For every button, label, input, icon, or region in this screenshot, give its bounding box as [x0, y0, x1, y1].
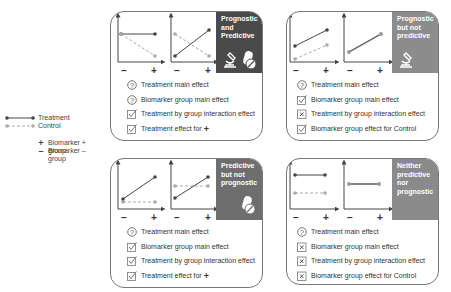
- panel-header: Predictive but not prognostic: [216, 159, 262, 220]
- effect-item: Biomarker group main effect: [297, 240, 425, 255]
- panel-neither: – + – + Neither predictive nor prognosti…: [286, 158, 439, 285]
- panel-title-line: Predictive: [221, 162, 259, 171]
- axis-plus-label: +: [151, 65, 157, 76]
- panel-title-line: prognostic: [221, 179, 259, 188]
- svg-text:+: +: [377, 212, 383, 223]
- checkbox-cross-icon: [297, 242, 307, 252]
- question-icon: ?: [127, 95, 137, 105]
- panel-prognostic-not-predictive: – + – + Prognostic but not predictive ? …: [286, 11, 439, 141]
- question-icon: ?: [297, 80, 307, 90]
- panel-plots: – + – +: [111, 12, 219, 76]
- treatment-line-icon: [4, 114, 36, 122]
- effect-item: Biomarker group effect for Control: [297, 122, 425, 137]
- effect-item: ? Biomarker group main effect: [127, 93, 255, 108]
- effect-item: Biomarker group main effect: [297, 93, 425, 108]
- effect-item: Treatment effect for +: [127, 122, 255, 137]
- effect-item: Biomarker group effect for Control: [297, 269, 425, 284]
- pill-icon: [241, 50, 257, 70]
- checkbox-cross-icon: [297, 256, 307, 266]
- effect-item: ? Treatment main effect: [297, 225, 425, 240]
- panel-title-line: Neither: [397, 162, 435, 171]
- panel-title-line: predictive: [397, 32, 435, 41]
- panel-header: Prognostic but not predictive: [392, 12, 438, 73]
- effect-item: ? Treatment main effect: [297, 78, 425, 93]
- legend-treatment-label: Treatment: [38, 114, 70, 122]
- checkbox-cross-icon: [297, 109, 307, 119]
- panel-effects-list: ? Treatment main effect ? Biomarker grou…: [127, 78, 255, 136]
- panel-predictive-not-prognostic: – + – + Predictive but not prognostic ? …: [110, 158, 263, 288]
- svg-text:?: ?: [130, 229, 134, 236]
- axis-minus-label: –: [121, 65, 127, 76]
- panel-effects-list: ? Treatment main effect Biomarker group …: [297, 225, 425, 283]
- panel-title-line: predictive: [397, 171, 435, 180]
- svg-text:+: +: [205, 65, 211, 76]
- panel-prognostic-and-predictive: – + – + Prognostic and Predictive ? Trea…: [110, 11, 263, 141]
- panel-effects-list: ? Treatment main effect Biomarker group …: [297, 78, 425, 136]
- panel-title-line: nor: [397, 179, 435, 188]
- plus-icon: +: [204, 269, 209, 284]
- effect-item: ? Treatment main effect: [127, 78, 255, 93]
- panel-effects-list: ? Treatment main effect Biomarker group …: [127, 225, 255, 283]
- svg-text:–: –: [121, 212, 127, 223]
- svg-text:?: ?: [130, 96, 134, 103]
- svg-text:–: –: [174, 212, 180, 223]
- effect-item: Treatment by group interaction effect: [127, 254, 255, 269]
- legend-treatment: Treatment: [4, 114, 104, 122]
- legend-control-label: Control: [38, 122, 61, 130]
- effect-item: ? Treatment main effect: [127, 225, 255, 240]
- svg-text:+: +: [151, 212, 157, 223]
- svg-text:?: ?: [300, 229, 304, 236]
- svg-text:+: +: [377, 65, 383, 76]
- effect-item: Treatment by group interaction effect: [297, 107, 425, 122]
- svg-text:–: –: [347, 212, 353, 223]
- svg-text:–: –: [174, 65, 180, 76]
- minus-icon: –: [36, 147, 46, 155]
- effect-item: Treatment effect for +: [127, 269, 255, 284]
- checkbox-checked-icon: [297, 124, 307, 134]
- svg-text:+: +: [323, 212, 329, 223]
- svg-text:?: ?: [130, 82, 134, 89]
- panel-plots: – + – +: [287, 159, 395, 223]
- panel-title-line: Prognostic: [221, 15, 259, 24]
- microscope-icon: [221, 51, 239, 69]
- checkbox-checked-icon: [127, 109, 137, 119]
- svg-text:–: –: [293, 65, 299, 76]
- svg-text:+: +: [205, 212, 211, 223]
- legend-biomarker-minus-label: Biomarker – group: [48, 147, 104, 163]
- question-icon: ?: [127, 80, 137, 90]
- legend-biomarker-plus: + Biomarker + group: [4, 139, 104, 147]
- effect-item: Biomarker group main effect: [127, 240, 255, 255]
- pill-icon: [240, 195, 256, 215]
- plus-icon: +: [204, 122, 209, 137]
- control-line-icon: [4, 122, 36, 130]
- question-icon: ?: [127, 227, 137, 237]
- legend: Treatment Control + Biomarker + group – …: [4, 114, 104, 155]
- checkbox-checked-icon: [127, 124, 137, 134]
- legend-biomarker-minus: – Biomarker – group: [4, 147, 104, 155]
- panel-title-line: Predictive: [221, 32, 259, 41]
- effect-item: Treatment by group interaction effect: [297, 254, 425, 269]
- question-icon: ?: [297, 227, 307, 237]
- checkbox-cross-icon: [297, 271, 307, 281]
- checkbox-checked-icon: [127, 242, 137, 252]
- panel-plots: – + – +: [111, 159, 219, 223]
- panel-title-line: and: [221, 24, 259, 33]
- panel-title-line: prognostic: [397, 188, 435, 197]
- panel-title-line: Prognostic: [397, 15, 435, 24]
- svg-text:+: +: [323, 65, 329, 76]
- effect-item: Treatment by group interaction effect: [127, 107, 255, 122]
- panel-title-line: but not: [397, 24, 435, 33]
- svg-text:–: –: [293, 212, 299, 223]
- panel-title-line: but not: [221, 171, 259, 180]
- panel-header: Neither predictive nor prognostic: [392, 159, 438, 220]
- panel-header: Prognostic and Predictive: [216, 12, 262, 73]
- checkbox-checked-icon: [127, 256, 137, 266]
- svg-text:?: ?: [300, 82, 304, 89]
- microscope-icon: [397, 51, 415, 69]
- checkbox-checked-icon: [127, 271, 137, 281]
- legend-control: Control: [4, 122, 104, 130]
- svg-text:–: –: [347, 65, 353, 76]
- panel-plots: – + – +: [287, 12, 395, 76]
- checkbox-checked-icon: [297, 95, 307, 105]
